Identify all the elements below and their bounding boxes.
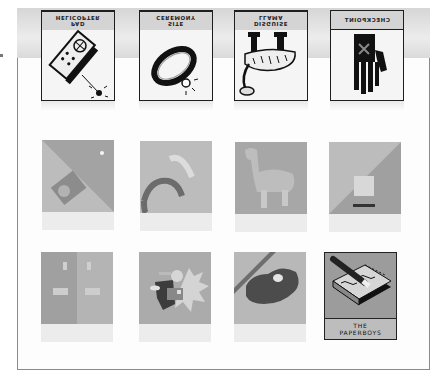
side-marker	[0, 54, 3, 57]
tile-doors[interactable]	[41, 252, 113, 324]
card-disguise-llama[interactable]: DISGUISE LLAMA	[234, 10, 308, 101]
remote-control-icon	[42, 30, 114, 100]
card-checkpoint[interactable]: CHECKPOINT	[330, 10, 404, 101]
ring-icon	[140, 30, 212, 100]
card-label: CHECKPOINT	[331, 11, 403, 30]
ring-fragment-icon	[140, 141, 212, 213]
card-label: DISGUISE LLAMA	[235, 11, 307, 30]
notepad-pencil-icon	[325, 253, 395, 317]
llama-icon	[235, 30, 307, 100]
tile-paperboys-selected[interactable]: THE PAPERBOYS	[324, 252, 397, 340]
square-diagonal-icon	[329, 142, 401, 214]
tile-llama[interactable]	[235, 142, 307, 214]
tile-blob[interactable]	[234, 252, 306, 324]
card-label: PAD HELICOPTER	[42, 11, 114, 30]
card-label: SITE CEREMONY	[140, 11, 212, 30]
tile-explosion[interactable]	[139, 252, 211, 324]
card-reflection	[41, 101, 115, 111]
dark-blob-icon	[234, 252, 306, 324]
explosion-figure-icon	[139, 252, 211, 324]
tile-ring-fragment[interactable]	[140, 141, 212, 213]
sticker-circle-icon	[42, 140, 114, 212]
card-reflection	[234, 101, 308, 111]
tile-square[interactable]	[329, 142, 401, 214]
llama-silhouette-icon	[235, 142, 307, 214]
tile-caption: THE PAPERBOYS	[325, 318, 396, 339]
door-panels-icon	[41, 252, 113, 324]
card-reflection	[139, 101, 213, 111]
hand-x-icon	[331, 30, 403, 100]
tile-sticker[interactable]	[42, 140, 114, 212]
card-reflection	[330, 101, 404, 111]
card-pad-helicopter[interactable]: PAD HELICOPTER	[41, 10, 115, 101]
card-site-ceremony[interactable]: SITE CEREMONY	[139, 10, 213, 101]
